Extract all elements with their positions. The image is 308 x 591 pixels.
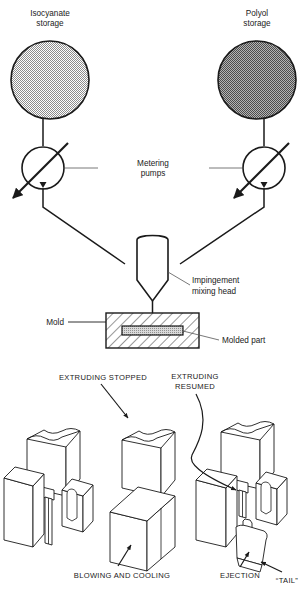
impingement-label-line1: Impingement [192,276,240,285]
metering-pumps-label-line1: Metering [137,159,169,168]
diagram-canvas: Isocyanate storage Polyol storage [0,0,308,591]
mixing-head-body [137,236,168,302]
polyol-storage-label-line2: storage [243,19,271,28]
tail-label: “TAIL” [276,576,299,585]
isocyanate-storage-label-line1: Isocyanate [30,9,70,18]
isocyanate-storage-label-line2: storage [36,19,64,28]
tail-arrow [261,562,282,572]
stage2-closed-mold-front [110,512,147,571]
stage2-extruder-side [161,432,175,497]
stage3-extruder-top [221,422,274,434]
blow-molding-stage-3 [196,422,287,573]
stage1-mold-half-left-side [33,474,44,547]
blow-molding-stage-2 [110,430,175,572]
process-diagram-svg: Isocyanate storage Polyol storage [0,0,308,591]
molded-part-label: Molded part [222,336,266,345]
feed-line-left [43,200,125,264]
metering-pump-left [13,143,98,200]
extruding-stopped-arrow [101,384,128,418]
mold-label: Mold [46,318,64,327]
molded-part-cavity [122,326,183,335]
isocyanate-storage-tank [11,41,89,119]
extruding-resumed-label-line1: EXTRUDING [171,372,218,381]
isocyanate-tank-circle [11,41,89,119]
impingement-label-line2: mixing head [192,287,237,296]
blowing-and-cooling-label: BLOWING AND COOLING [74,571,170,580]
polyol-storage-tank [218,41,296,119]
ejection-label: EJECTION [220,571,260,580]
extruding-resumed-label-line2: RESUMED [175,382,215,391]
stage1-mold-half-left-front [4,478,33,547]
polyol-tank-circle [218,41,296,119]
stage1-mold-cavity-right [67,489,77,521]
metering-pumps-label-line2: pumps [141,169,166,178]
metering-pump-right [209,143,289,200]
stage2-extruder-top [122,430,175,442]
mold-block [106,313,199,348]
stage3-mold-half-left-front [196,480,226,547]
impingement-mixing-head [137,236,190,314]
stage3-mold-cavity-right [261,482,271,514]
extruding-stopped-label: EXTRUDING STOPPED [59,373,147,382]
blow-molding-stage-1 [4,429,93,548]
polyol-storage-label-line1: Polyol [246,9,268,18]
mixing-head-leader [168,272,190,285]
stage1-extruder-top [27,429,80,441]
feed-line-right [180,200,264,264]
